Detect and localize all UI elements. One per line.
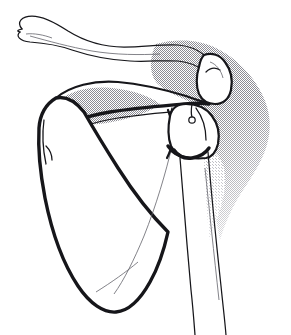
shoulder-anatomy-drawing: Anterior view of the right shoulder gird… (0, 0, 291, 335)
bicipital-groove-line (191, 104, 192, 117)
nutrient-foramen-circle (189, 117, 195, 123)
anatomy-figure: Anterior view of the right shoulder gird… (0, 0, 291, 335)
